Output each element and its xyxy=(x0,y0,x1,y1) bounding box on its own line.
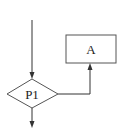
process-a-label: A xyxy=(86,42,96,57)
entry-arrow xyxy=(30,20,35,79)
branch-to-a-arrow xyxy=(58,63,93,94)
arrowhead-icon xyxy=(30,72,35,79)
flowchart-canvas: P1 A xyxy=(0,0,120,139)
process-a[interactable]: A xyxy=(66,35,116,63)
arrowhead-icon xyxy=(30,121,35,128)
decision-p1[interactable]: P1 xyxy=(7,79,58,108)
exit-arrow xyxy=(30,108,35,128)
decision-p1-label: P1 xyxy=(25,87,39,102)
arrowhead-icon xyxy=(88,63,93,70)
